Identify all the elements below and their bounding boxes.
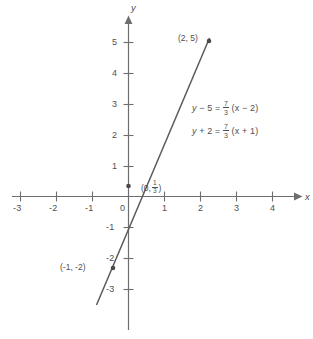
y-intercept-close-paren: ) bbox=[159, 183, 162, 193]
plotted-line bbox=[97, 38, 210, 305]
equation-first-operator: − 5 = bbox=[199, 103, 220, 113]
data-point-2-5 bbox=[207, 39, 212, 44]
y-tick-label-1: 1 bbox=[112, 161, 117, 171]
equation-first-slope-fraction: 7 3 bbox=[223, 100, 229, 116]
y-tick-label-neg2: -2 bbox=[106, 253, 114, 263]
x-tick-label-1: 1 bbox=[162, 203, 167, 213]
x-tick-label-neg2: -2 bbox=[49, 203, 57, 213]
data-point-neg1-neg2 bbox=[111, 266, 116, 271]
equation-second-slope-fraction: 7 3 bbox=[223, 123, 229, 139]
y-intercept-numerator: 1 bbox=[152, 180, 158, 187]
y-intercept-fraction: 1 3 bbox=[152, 180, 158, 195]
y-tick-label-neg3: -3 bbox=[106, 284, 114, 294]
x-tick-label-3: 3 bbox=[234, 203, 239, 213]
x-tick-label-4: 4 bbox=[270, 203, 275, 213]
y-intercept-open-paren: (0, bbox=[141, 183, 151, 193]
equation-second-operator: + 2 = bbox=[199, 126, 220, 136]
equation-point-slope-second: y + 2 = 7 3 (x + 1) bbox=[192, 123, 258, 139]
x-tick-label-0: 0 bbox=[120, 203, 125, 213]
equation-point-slope-first: y − 5 = 7 3 (x − 2) bbox=[192, 100, 258, 116]
y-tick-label-neg1: -1 bbox=[106, 222, 114, 232]
y-tick-label-3: 3 bbox=[112, 99, 117, 109]
x-tick-label-2: 2 bbox=[198, 203, 203, 213]
equation-first-numerator: 7 bbox=[223, 100, 229, 108]
y-tick-label-2: 2 bbox=[112, 130, 117, 140]
y-intercept-denominator: 3 bbox=[152, 187, 158, 195]
equation-first-rhs: (x − 2) bbox=[231, 103, 258, 113]
x-axis-label: x bbox=[305, 191, 310, 202]
data-point-0-one-third bbox=[126, 184, 131, 189]
equation-second-numerator: 7 bbox=[223, 123, 229, 131]
point-label-2-5: (2, 5) bbox=[178, 33, 198, 43]
coordinate-plane-svg bbox=[0, 0, 313, 339]
y-axis-label: y bbox=[131, 2, 136, 13]
x-axis-arrow bbox=[294, 193, 303, 201]
point-label-y-intercept: (0, 1 3 ) bbox=[141, 180, 161, 195]
equation-first-variable: y bbox=[192, 103, 197, 113]
point-label-neg1-neg2: (-1, -2) bbox=[60, 262, 86, 272]
y-axis-arrow bbox=[125, 16, 133, 25]
y-tick-label-5: 5 bbox=[112, 37, 117, 47]
equation-second-denominator: 3 bbox=[223, 130, 229, 139]
equation-second-variable: y bbox=[192, 126, 197, 136]
x-tick-label-neg3: -3 bbox=[13, 203, 21, 213]
y-tick-label-4: 4 bbox=[112, 68, 117, 78]
graph-figure: x y -3 -2 -1 0 1 2 3 4 5 4 3 2 1 -1 -2 -… bbox=[0, 0, 313, 339]
equation-first-denominator: 3 bbox=[223, 107, 229, 116]
x-tick-label-neg1: -1 bbox=[85, 203, 93, 213]
equation-second-rhs: (x + 1) bbox=[231, 126, 258, 136]
